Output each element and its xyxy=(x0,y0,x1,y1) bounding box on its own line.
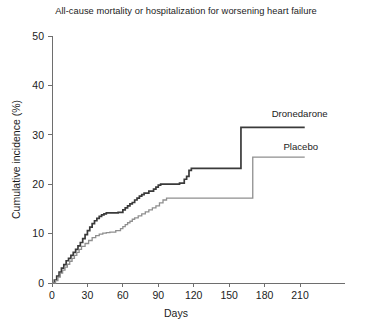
y-axis-tick-label: 10 xyxy=(32,227,44,239)
series-labels-group: DronedaronePlacebo xyxy=(272,108,328,152)
y-axis-tick-label: 40 xyxy=(32,79,44,91)
y-axis-tick-label: 20 xyxy=(32,178,44,190)
x-axis-tick-label: 60 xyxy=(117,289,129,301)
y-axis-title: Cumulative incidence (%) xyxy=(10,100,22,219)
series-line-placebo xyxy=(52,157,305,283)
x-axis-tick-label: 210 xyxy=(291,289,309,301)
y-axis-tick-label: 50 xyxy=(32,30,44,42)
chart-plot-area: 010203040500306090120150180210DaysCumula… xyxy=(0,0,372,325)
x-axis-tick-label: 180 xyxy=(256,289,274,301)
chart-figure: All-cause mortality or hospitalization f… xyxy=(0,0,372,325)
x-axis-tick-label: 90 xyxy=(152,289,164,301)
series-line-dronedarone xyxy=(52,127,305,283)
series-group xyxy=(52,127,305,283)
x-axis-tick-label: 0 xyxy=(49,289,55,301)
x-axis-tick-label: 30 xyxy=(82,289,94,301)
x-axis-tick-label: 150 xyxy=(220,289,238,301)
x-axis-tick-label: 120 xyxy=(185,289,203,301)
x-axis-title: Days xyxy=(164,307,188,319)
y-axis-tick-label: 30 xyxy=(32,129,44,141)
y-axis-tick-label: 0 xyxy=(38,277,44,289)
series-label-placebo: Placebo xyxy=(283,141,318,152)
series-label-dronedarone: Dronedarone xyxy=(272,108,328,119)
